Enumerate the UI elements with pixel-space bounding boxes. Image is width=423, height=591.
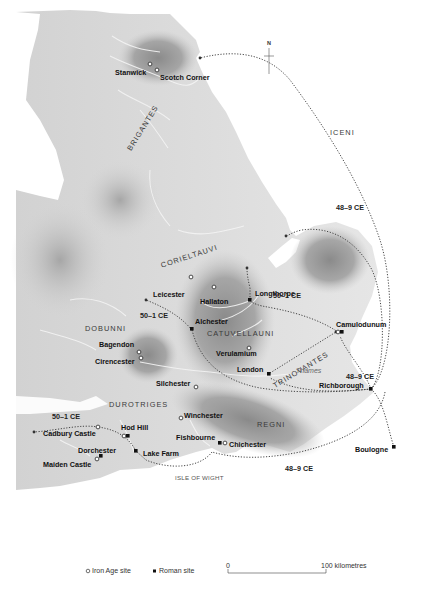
- label-richborough: Richborough: [319, 382, 364, 389]
- north-label: N: [267, 40, 271, 46]
- iceni-territory: [290, 226, 370, 294]
- scale-start-label: 0: [226, 562, 230, 569]
- date-south-west: 50–1 CE: [52, 413, 80, 420]
- label-cadbury-castle: Cadbury Castle: [43, 430, 96, 437]
- date-alchester: 50–1 CE: [140, 312, 168, 319]
- label-cirencester: Cirencester: [95, 358, 135, 365]
- legend-iron-age-label: Iron Age site: [92, 567, 131, 574]
- label-thames: Thames: [296, 367, 321, 374]
- label-alchester: Alchester: [195, 318, 228, 325]
- legend-roman-icon: [153, 570, 156, 573]
- label-lake-farm: Lake Farm: [143, 450, 179, 457]
- label-scotch-corner: Scotch Corner: [160, 74, 210, 81]
- label-hod-hill: Hod Hill: [121, 424, 148, 431]
- tribe-durotriges: DUROTRIGES: [109, 401, 168, 408]
- label-winchester: Winchester: [184, 412, 223, 419]
- label-maiden-castle: Maiden Castle: [43, 461, 91, 468]
- label-dorchester: Dorchester: [78, 447, 116, 454]
- tribe-iceni: ICENI: [330, 129, 355, 136]
- tribe-regni: REGNI: [257, 421, 285, 428]
- upland-shade-2: [80, 160, 160, 240]
- date-north-east: 48–9 CE: [336, 204, 364, 211]
- scale-bar: [228, 569, 326, 573]
- tribe-dobunni: DOBUNNI: [85, 325, 126, 332]
- label-silchester: Silchester: [156, 380, 190, 387]
- date-south-coast: 48–9 CE: [285, 465, 313, 472]
- north-arrow-icon: [264, 48, 274, 74]
- map-canvas: [0, 0, 423, 591]
- label-verulamium: Verulamium: [216, 350, 257, 357]
- date-longthorpe: 50–1 CE: [273, 292, 301, 299]
- label-hallaton: Hallaton: [200, 298, 228, 305]
- label-london: London: [237, 366, 263, 373]
- label-stanwick: Stanwick: [115, 69, 146, 76]
- label-camulodunum: Camulodunum: [336, 321, 386, 328]
- label-boulogne: Boulogne: [355, 446, 388, 453]
- legend-roman-label: Roman site: [159, 567, 194, 574]
- dobunni-territory: [118, 327, 178, 383]
- label-fishbourne: Fishbourne: [176, 434, 215, 441]
- date-richborough: 48–9 CE: [346, 373, 374, 380]
- label-leicester: Leicester: [153, 291, 185, 298]
- tribe-catuvellauni: CATUVELLAUNI: [207, 330, 274, 337]
- scale-end-label: 100 kilometres: [321, 562, 367, 569]
- label-bagendon: Bagendon: [99, 341, 134, 348]
- route-richborough-boulogne: [371, 389, 394, 447]
- label-isle-of-wight: ISLE OF WIGHT: [175, 475, 224, 481]
- legend-iron-age-icon: [86, 569, 90, 573]
- label-chichester: Chichester: [229, 441, 266, 448]
